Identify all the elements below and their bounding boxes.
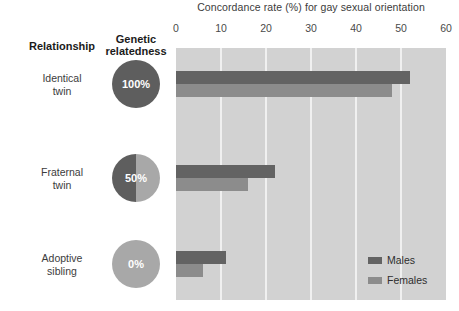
genetic-relatedness-value-0: 0% xyxy=(112,240,160,288)
row-label-fraternal-twin: Fraternal twin xyxy=(4,166,120,191)
bar-identical-twin-females xyxy=(176,84,392,97)
legend-item-females: Females xyxy=(368,272,427,288)
x-axis-tick-60: 60 xyxy=(440,22,452,34)
x-axis-tick-40: 40 xyxy=(350,22,362,34)
row-label-adoptive-sibling: Adoptive sibling xyxy=(4,252,120,277)
legend-swatch-males xyxy=(368,257,382,264)
bar-fraternal-twin-females xyxy=(176,178,248,191)
x-axis-tick-50: 50 xyxy=(395,22,407,34)
x-axis-tick-30: 30 xyxy=(305,22,317,34)
column-header-genetic-relatedness: Genetic relatedness xyxy=(96,33,176,57)
row-label-identical-twin: Identical twin xyxy=(4,72,120,97)
bar-identical-twin-males xyxy=(176,71,410,84)
x-axis-tick-20: 20 xyxy=(260,22,272,34)
bar-adoptive-sibling-males xyxy=(176,251,226,264)
x-axis-title: Concordance rate (%) for gay sexual orie… xyxy=(176,1,446,13)
row-label-line2: twin xyxy=(53,179,72,191)
plot-area: Males Females xyxy=(176,48,446,300)
legend-label-males: Males xyxy=(387,254,415,266)
genetic-relatedness-value-50: 50% xyxy=(112,154,160,202)
x-axis-tick-10: 10 xyxy=(215,22,227,34)
row-label-line1: Fraternal xyxy=(41,166,83,178)
row-label-line2: sibling xyxy=(47,265,77,277)
row-label-line1: Identical xyxy=(42,72,81,84)
legend-swatch-females xyxy=(368,277,382,284)
legend-item-males: Males xyxy=(368,252,427,268)
column-header-genetic-relatedness-line1: Genetic xyxy=(116,33,156,45)
concordance-rate-chart: Concordance rate (%) for gay sexual orie… xyxy=(0,0,459,311)
row-label-line2: twin xyxy=(53,85,72,97)
legend: Males Females xyxy=(368,252,427,292)
row-label-line1: Adoptive xyxy=(42,252,83,264)
bar-fraternal-twin-males xyxy=(176,165,275,178)
bar-adoptive-sibling-females xyxy=(176,264,203,277)
legend-label-females: Females xyxy=(387,274,427,286)
column-header-genetic-relatedness-line2: relatedness xyxy=(105,45,166,57)
genetic-relatedness-value-100: 100% xyxy=(112,60,160,108)
